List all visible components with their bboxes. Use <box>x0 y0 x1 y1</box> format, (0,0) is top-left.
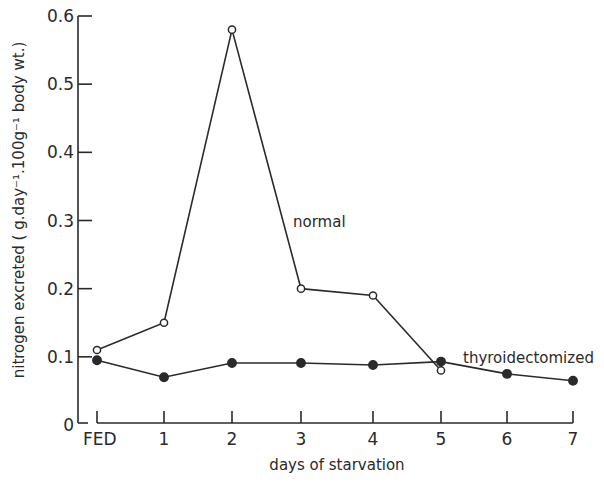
y-tick-label: 0.5 <box>47 74 74 94</box>
series-label-thyroidectomized: thyroidectomized <box>463 349 594 367</box>
y-axis-title: nitrogen excreted ( g.day⁻¹.100g⁻¹ body … <box>10 42 28 379</box>
data-point <box>93 346 100 353</box>
x-tick-label: 7 <box>568 429 579 449</box>
x-tick-label: 3 <box>296 429 307 449</box>
data-point <box>369 361 377 369</box>
data-point <box>297 285 304 292</box>
data-point <box>369 292 376 299</box>
data-point <box>228 359 236 367</box>
data-point <box>160 319 167 326</box>
series-layer <box>93 26 577 385</box>
x-tick-label: 1 <box>159 429 170 449</box>
data-point <box>437 367 444 374</box>
y-tick-label: 0.6 <box>47 6 74 26</box>
series-normal <box>93 26 444 374</box>
data-point <box>297 359 305 367</box>
x-tick-label: FED <box>83 429 117 449</box>
data-point <box>437 357 445 365</box>
x-tick-label: 5 <box>436 429 447 449</box>
x-tick-label: 6 <box>502 429 513 449</box>
data-point <box>93 356 101 364</box>
y-tick-label: 0.4 <box>47 142 74 162</box>
y-tick-label: 0.2 <box>47 279 74 299</box>
y-tick-label: 0.1 <box>47 347 74 367</box>
data-point <box>228 26 235 33</box>
data-point <box>503 370 511 378</box>
data-point <box>160 373 168 381</box>
line-chart: 00.10.20.30.40.50.6 FED1234567 nitrogen … <box>0 0 604 484</box>
data-point <box>569 376 577 384</box>
y-tick-label: 0.3 <box>47 211 74 231</box>
y-tick-label: 0 <box>63 415 74 435</box>
x-tick-label: 4 <box>368 429 379 449</box>
x-axis: FED1234567 <box>83 411 578 449</box>
series-label-normal: normal <box>293 213 346 231</box>
x-axis-title: days of starvation <box>269 456 404 474</box>
y-axis: 00.10.20.30.40.50.6 <box>47 6 92 435</box>
x-tick-label: 2 <box>227 429 238 449</box>
